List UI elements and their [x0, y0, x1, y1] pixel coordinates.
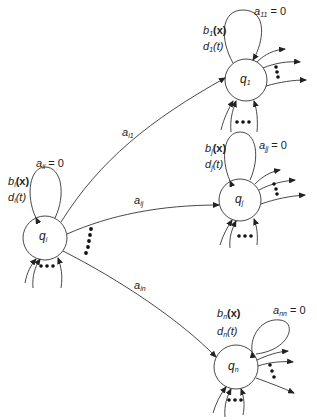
self-loop-label-qj: ajj = 0	[259, 140, 287, 152]
b-label-q1: b1(x)	[203, 25, 226, 37]
node-label-q1: q1	[240, 73, 251, 86]
d-label-qn: dn(t)	[217, 326, 237, 338]
diagram-graphics	[0, 0, 317, 420]
self-loop-qi	[30, 167, 61, 218]
out-arrow-q1-1	[257, 49, 285, 62]
out-arrow-q1-3	[266, 80, 306, 86]
b-label-qj: bj(x)	[205, 143, 226, 155]
out-arrow-qn-3	[256, 378, 294, 393]
b-label-qn: bn(x)	[217, 308, 240, 320]
node-label-qn: qn	[228, 360, 239, 373]
in-arrow-qj-2	[230, 221, 236, 248]
in-arrow-qi-2	[33, 259, 40, 288]
edge-label-qi-qn: ain	[134, 280, 146, 292]
in-arrow-qn-3	[241, 389, 244, 415]
self-loop-label-qn: ann = 0	[273, 305, 306, 317]
out-arrow-q1-2	[263, 62, 300, 68]
out-arrow-qn-1	[257, 351, 288, 360]
state-transition-diagram: q1 a11 = 0 b1(x) d1(t) qi aii = 0 bi(x) …	[0, 0, 317, 420]
node-label-qj: qj	[235, 193, 243, 206]
b-label-qi: bi(x)	[8, 176, 29, 188]
self-loop-qn	[252, 320, 290, 354]
d-label-qj: dj(t)	[205, 159, 223, 171]
edge-label-qi-qj: aij	[134, 195, 143, 207]
out-arrow-qj-3	[261, 195, 305, 204]
in-arrow-qj-3	[254, 219, 257, 245]
edge-qi-qn	[63, 251, 216, 357]
in-arrow-qn-1	[213, 387, 226, 413]
self-loop-label-qi: aii = 0	[36, 158, 64, 170]
self-loop-label-q1: a11 = 0	[254, 6, 286, 18]
in-arrow-q1-3	[254, 101, 257, 132]
in-arrow-qn-2	[225, 389, 231, 417]
d-label-qi: di(t)	[8, 192, 26, 204]
self-loop-qj	[225, 132, 256, 181]
out-arrow-qn-2	[258, 362, 293, 366]
out-arrow-qj-1	[255, 170, 280, 184]
in-arrow-qi-3	[58, 258, 62, 288]
edge-label-qi-q1: ai1	[122, 127, 134, 139]
node-label-qi: qi	[39, 230, 47, 243]
d-label-q1: d1(t)	[203, 41, 223, 53]
in-arrow-q1-2	[231, 101, 236, 132]
